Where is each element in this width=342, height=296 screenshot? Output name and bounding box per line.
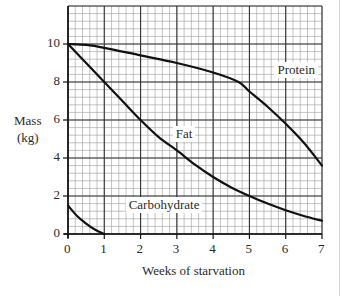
y-tick-label: 4 [54,149,61,165]
x-tick-label: 5 [245,241,252,257]
y-axis-label: Mass (kg) [14,112,41,146]
x-tick-label: 3 [173,241,180,257]
x-tick-label: 0 [64,241,71,257]
y-tick-label: 8 [54,73,61,89]
y-tick-label: 2 [54,187,61,203]
curve-carbohydrate [68,206,104,235]
y-tick-label: 10 [47,35,60,51]
x-tick-label: 1 [100,241,107,257]
y-tick-label: 0 [54,225,61,241]
series-label-carbohydrate: Carbohydrate [126,197,203,213]
x-tick-label: 7 [318,241,325,257]
x-tick-label: 4 [209,241,216,257]
page-edge-divider [339,0,340,296]
series-label-fat: Fat [173,126,196,142]
y-axis-label-line2: (kg) [14,129,41,146]
x-tick-label: 2 [137,241,144,257]
x-tick-label: 6 [282,241,289,257]
y-tick-label: 6 [54,111,61,127]
series-label-protein: Protein [274,62,318,78]
x-axis-label: Weeks of starvation [142,263,245,279]
y-axis-label-line1: Mass [14,112,41,129]
